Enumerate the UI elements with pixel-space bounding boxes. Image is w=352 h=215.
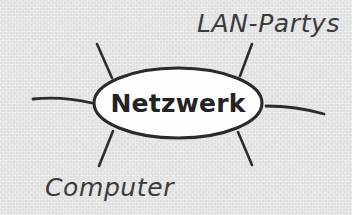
spoke-right xyxy=(266,106,324,114)
mindmap-canvas: Netzwerk LAN-Partys Computer xyxy=(0,0,352,215)
spoke-upper-right xyxy=(240,44,252,76)
spoke-upper-left xyxy=(97,44,112,78)
center-node-label: Netzwerk xyxy=(111,89,247,118)
spoke-lower-left xyxy=(99,131,113,166)
mindmap-diagram: Netzwerk LAN-Partys Computer xyxy=(0,0,352,215)
spoke-lower-right xyxy=(238,132,252,165)
branch-label-computer: Computer xyxy=(45,173,175,202)
branch-label-lan-partys: LAN-Partys xyxy=(197,9,340,38)
spoke-left xyxy=(33,98,92,103)
